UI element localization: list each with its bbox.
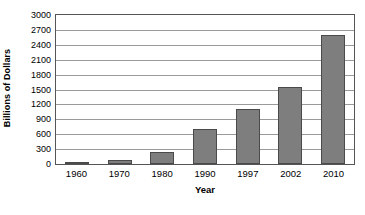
y-axis-tick-label: 2700	[31, 25, 51, 34]
y-axis-tick-label: 900	[36, 115, 51, 124]
y-axis-tick-label: 1500	[31, 85, 51, 94]
x-axis-tick-label: 1997	[226, 167, 269, 181]
y-axis-title-text: Billions of Dollars	[2, 48, 12, 126]
bar[interactable]	[65, 162, 89, 164]
bar[interactable]	[321, 35, 345, 164]
x-axis-tick-label: 1990	[184, 167, 227, 181]
bar-slot	[56, 15, 99, 164]
y-axis-tick-labels: 03006009001200150018002100240027003000	[14, 14, 54, 165]
x-axis-tick-labels: 1960197019801990199720022010	[55, 167, 355, 181]
y-axis-tick-label: 3000	[31, 11, 51, 20]
y-axis-tick-label: 2400	[31, 40, 51, 49]
x-axis-tick-label: 1960	[55, 167, 98, 181]
bar-chart-figure: Billions of Dollars 03006009001200150018…	[0, 0, 365, 215]
bar-slot	[311, 15, 354, 164]
bar[interactable]	[236, 109, 260, 164]
y-axis-tick-label: 600	[36, 130, 51, 139]
bar-slot	[141, 15, 184, 164]
x-axis-tick-label: 2010	[312, 167, 355, 181]
bar-slot	[99, 15, 142, 164]
plot-area	[55, 14, 355, 165]
bar[interactable]	[193, 129, 217, 164]
bar-slot	[226, 15, 269, 164]
y-axis-tick-label: 300	[36, 145, 51, 154]
y-axis-title: Billions of Dollars	[0, 0, 14, 175]
x-axis-tick-label: 2002	[269, 167, 312, 181]
bar-series	[56, 15, 354, 164]
bar[interactable]	[150, 152, 174, 164]
y-axis-tick-label: 1800	[31, 70, 51, 79]
y-axis-tick-label: 2100	[31, 55, 51, 64]
bar-slot	[184, 15, 227, 164]
x-axis-title: Year	[55, 184, 355, 195]
bar[interactable]	[278, 87, 302, 164]
x-axis-tick-label: 1980	[141, 167, 184, 181]
bar-slot	[269, 15, 312, 164]
x-axis-tick-label: 1970	[98, 167, 141, 181]
y-axis-tick-label: 1200	[31, 100, 51, 109]
bar[interactable]	[108, 160, 132, 164]
y-axis-tick-label: 0	[46, 160, 51, 169]
